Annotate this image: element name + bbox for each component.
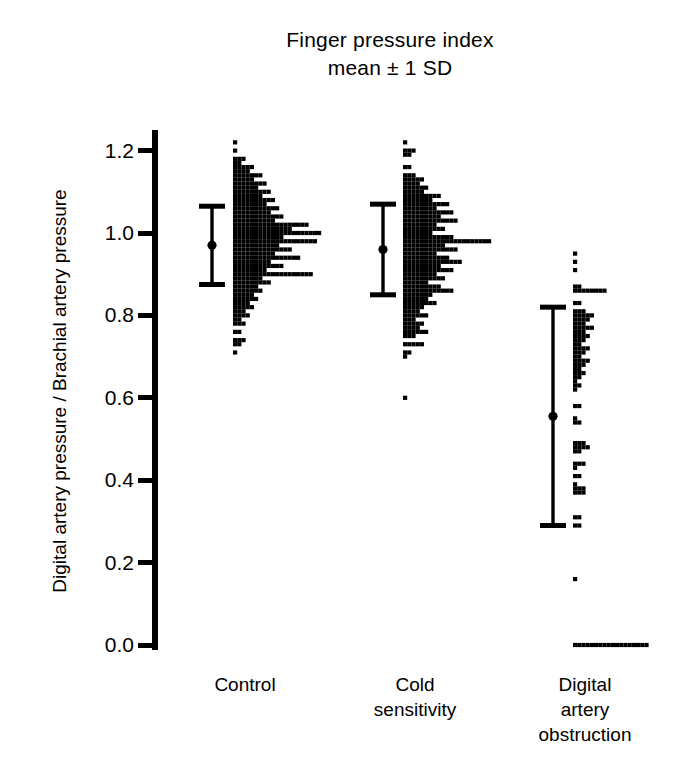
mean-marker: [548, 412, 557, 421]
series-group: [540, 252, 649, 648]
dot-histogram: [233, 140, 321, 354]
x-category-label-2: Digitalarteryobstruction: [485, 672, 685, 747]
x-category-label-line: obstruction: [485, 722, 685, 747]
x-category-label-line: artery: [485, 697, 685, 722]
series-group: [199, 140, 321, 354]
chart-figure: Finger pressure index mean ± 1 SD Digita…: [0, 0, 687, 780]
series-group: [370, 140, 491, 400]
dot-histogram: [403, 140, 491, 400]
error-bar: [199, 206, 225, 284]
plot-area: [0, 0, 687, 780]
x-category-label-line: Digital: [485, 672, 685, 697]
error-bar: [370, 204, 396, 295]
error-bar: [540, 307, 566, 525]
mean-marker: [378, 245, 387, 254]
dot-histogram: [573, 252, 649, 648]
mean-marker: [207, 241, 216, 250]
